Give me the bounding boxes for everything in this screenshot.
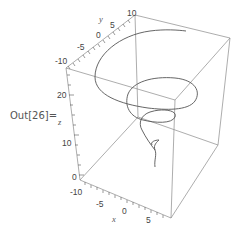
z-tick-label: 20 bbox=[57, 90, 67, 100]
x-tick-label: 5 bbox=[146, 215, 151, 225]
plot-3d[interactable]: 10 5 0 -5 -10 y 20 10 0 z -10 -5 0 5 x bbox=[0, 0, 235, 232]
x-tick-label: -10 bbox=[70, 187, 83, 197]
x-tick-label: 0 bbox=[122, 206, 127, 216]
bounding-box bbox=[66, 15, 230, 218]
y-tick-label: 5 bbox=[110, 20, 115, 30]
z-axis-label: z bbox=[57, 117, 62, 127]
x-tick-label: -5 bbox=[96, 199, 104, 209]
y-tick-label: 0 bbox=[96, 30, 101, 40]
z-tick-label: 10 bbox=[62, 138, 72, 148]
z-tick-label: 0 bbox=[72, 172, 77, 182]
y-tick-label: -10 bbox=[55, 56, 68, 66]
x-axis-label: x bbox=[111, 214, 116, 224]
y-axis-label: y bbox=[98, 14, 103, 24]
y-tick-label: -5 bbox=[77, 42, 85, 52]
spiral-curve bbox=[95, 30, 197, 167]
y-tick-label: 10 bbox=[127, 8, 137, 18]
z-axis-ticks bbox=[67, 75, 84, 175]
